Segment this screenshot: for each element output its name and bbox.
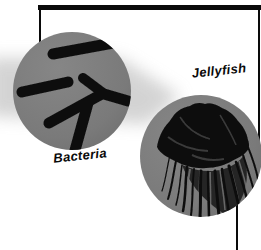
frame-top-border	[38, 5, 261, 10]
bacteria-magnified-circle	[13, 32, 131, 150]
bacterium-rod	[104, 94, 128, 101]
jellyfish-magnified-circle	[140, 95, 261, 217]
figure-canvas: Bacteria Jellyfish	[0, 0, 261, 250]
